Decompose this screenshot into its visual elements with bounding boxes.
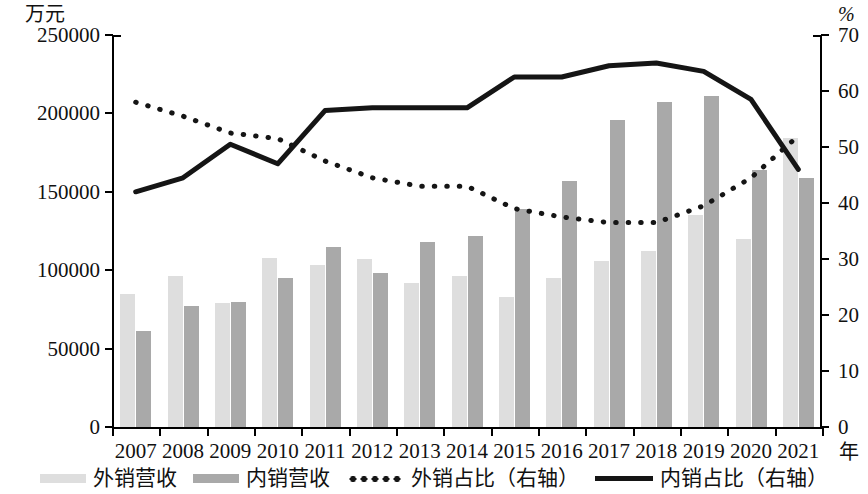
left-axis-tick-label: 200000 xyxy=(0,103,100,124)
legend-swatch-outer-revenue xyxy=(40,474,86,483)
left-axis-unit-label: 万元 xyxy=(25,4,65,24)
legend-item-label: 内销营收 xyxy=(246,468,330,489)
right-axis-tick-label: 0 xyxy=(838,417,849,438)
right-axis-unit-label: % xyxy=(838,4,855,24)
legend-item[interactable]: 外销占比（右轴） xyxy=(346,468,579,489)
x-axis-tick-mark xyxy=(159,428,161,436)
x-axis-tick-mark xyxy=(396,428,398,436)
x-axis-unit-label: 年 xyxy=(839,442,859,462)
legend-item[interactable]: 内销占比（右轴） xyxy=(595,468,828,489)
x-axis-category-label: 2021 xyxy=(768,441,828,462)
right-axis-tick-label: 60 xyxy=(838,81,859,102)
legend-swatch-inner-revenue xyxy=(193,474,239,483)
right-axis-tick-mark xyxy=(821,34,829,36)
x-axis-tick-mark xyxy=(822,428,824,436)
legend-item-label: 外销占比（右轴） xyxy=(411,468,579,489)
legend-item-label: 内销占比（右轴） xyxy=(660,468,828,489)
legend-swatch-inner-share xyxy=(595,476,653,481)
left-axis-tick-label: 150000 xyxy=(0,181,100,202)
x-axis-tick-mark xyxy=(301,428,303,436)
line-series-layer xyxy=(112,35,822,427)
x-axis-tick-mark xyxy=(538,428,540,436)
line-outer-share xyxy=(136,102,799,222)
line-inner-share xyxy=(136,63,799,192)
right-axis-tick-mark xyxy=(821,90,829,92)
x-axis-tick-mark xyxy=(680,428,682,436)
x-axis-tick-mark xyxy=(443,428,445,436)
legend-item[interactable]: 内销营收 xyxy=(193,468,330,489)
x-axis-tick-mark xyxy=(254,428,256,436)
x-axis-tick-mark xyxy=(585,428,587,436)
chart-container: 万元 % 250000200000150000100000500000 7060… xyxy=(0,0,868,494)
x-axis-tick-mark xyxy=(633,428,635,436)
chart-legend: 外销营收内销营收外销占比（右轴）内销占比（右轴） xyxy=(0,463,868,494)
left-axis-tick-label: 100000 xyxy=(0,260,100,281)
x-axis-tick-mark xyxy=(727,428,729,436)
right-axis-tick-label: 40 xyxy=(838,193,859,214)
left-axis-tick-label: 250000 xyxy=(0,25,100,46)
right-axis-tick-label: 30 xyxy=(838,249,859,270)
right-axis-tick-label: 50 xyxy=(838,137,859,158)
right-axis-tick-mark xyxy=(821,146,829,148)
legend-item-label: 外销营收 xyxy=(93,468,177,489)
x-axis-tick-mark xyxy=(775,428,777,436)
left-axis-tick-label: 50000 xyxy=(0,338,100,359)
right-axis-tick-mark xyxy=(821,370,829,372)
legend-swatch-outer-share xyxy=(346,476,404,482)
right-axis-tick-mark xyxy=(821,258,829,260)
x-axis-tick-mark xyxy=(112,428,114,436)
x-axis-tick-mark xyxy=(349,428,351,436)
bottom-axis-line xyxy=(112,427,822,429)
right-axis-tick-label: 20 xyxy=(838,305,859,326)
x-axis-tick-mark xyxy=(207,428,209,436)
right-axis-tick-mark xyxy=(821,314,829,316)
x-axis-tick-mark xyxy=(491,428,493,436)
legend-item[interactable]: 外销营收 xyxy=(40,468,177,489)
right-axis-tick-mark xyxy=(821,202,829,204)
right-axis-tick-label: 10 xyxy=(838,361,859,382)
right-axis-tick-label: 70 xyxy=(838,25,859,46)
left-axis-tick-label: 0 xyxy=(0,417,100,438)
